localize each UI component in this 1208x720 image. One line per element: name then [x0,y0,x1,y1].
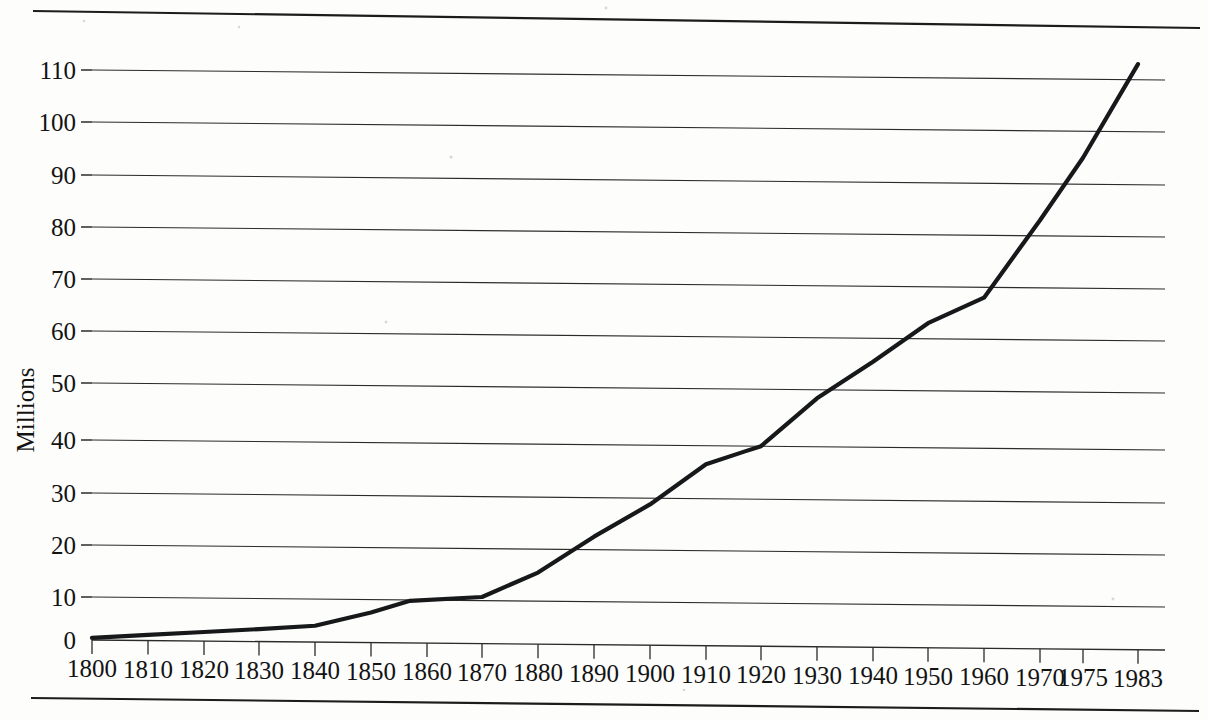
gridline-60 [92,331,1165,341]
scanned-figure-page: 0102030405060708090100110 18001810182018… [0,0,1208,720]
x-tick-label-1950: 1950 [903,663,953,690]
x-tick-label-1810: 1810 [123,656,173,683]
y-tick-label-50: 50 [51,370,76,397]
gridline-10 [92,597,1165,607]
x-axis-baseline [92,640,1165,650]
population-series-line [92,64,1138,638]
x-tick-label-1910: 1910 [681,661,731,688]
gridline-30 [92,493,1165,503]
x-tick-label-1930: 1930 [792,662,842,689]
x-tick-label-1800: 1800 [67,655,117,682]
population-chart-figure: 0102030405060708090100110 18001810182018… [0,0,1208,720]
x-tick-label-1890: 1890 [569,660,619,687]
top-horizontal-rule [33,11,1200,28]
scan-artifacts [83,7,1115,692]
y-tick-label-80: 80 [51,214,76,241]
bottom-horizontal-rule [31,698,1199,711]
y-axis-title: Millions [12,368,39,453]
x-tick-label-1870: 1870 [457,659,507,686]
gridline-40 [92,440,1165,450]
x-tick-label-1820: 1820 [179,656,229,683]
x-tick-label-1860: 1860 [402,658,452,685]
y-tick-label-100: 100 [39,109,77,136]
gridline-70 [92,279,1165,289]
x-tick-label-1940: 1940 [848,662,898,689]
gridline-50 [92,383,1165,393]
gridline-110 [92,70,1165,80]
gridline-90 [92,175,1165,185]
y-tick-label-40: 40 [51,427,76,454]
gridline-80 [92,227,1165,237]
x-tick-label-1880: 1880 [513,659,563,686]
horizontal-gridlines [92,70,1165,607]
y-tick-label-60: 60 [51,318,76,345]
y-tick-label-70: 70 [51,266,76,293]
y-tick-label-0: 0 [64,627,77,654]
gridline-100 [92,122,1165,132]
x-axis-tick-labels: 1800181018201830184018501860187018801890… [67,655,1163,692]
x-tick-label-1960: 1960 [959,663,1009,690]
y-axis-tick-marks [81,70,92,597]
x-tick-label-1850: 1850 [346,658,396,685]
x-tick-label-1983: 1983 [1113,665,1163,692]
y-tick-label-30: 30 [51,480,76,507]
x-tick-label-1900: 1900 [625,660,675,687]
y-tick-label-110: 110 [39,57,76,84]
x-tick-label-1975: 1975 [1058,664,1108,691]
x-tick-label-1840: 1840 [290,657,340,684]
y-tick-label-20: 20 [51,532,76,559]
y-tick-label-10: 10 [51,584,76,611]
y-tick-label-90: 90 [51,162,76,189]
y-axis-tick-labels: 0102030405060708090100110 [39,57,77,654]
gridline-20 [92,545,1165,555]
x-tick-label-1920: 1920 [736,661,786,688]
chart-canvas: 0102030405060708090100110 18001810182018… [0,0,1208,720]
x-tick-label-1830: 1830 [234,657,284,684]
